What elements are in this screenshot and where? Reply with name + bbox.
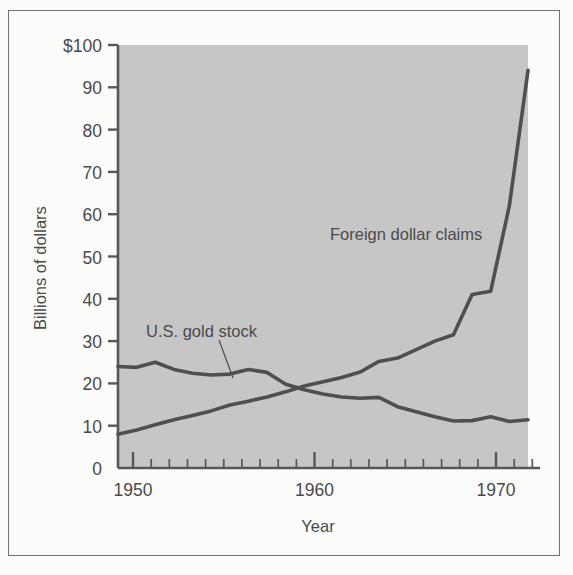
y-tick-label-10: 10	[83, 417, 103, 437]
y-tick-label-60: 60	[83, 205, 103, 225]
y-axis-ticks	[108, 45, 118, 426]
y-tick-label-50: 50	[83, 248, 103, 268]
x-tick-label-1960: 1960	[295, 480, 334, 500]
x-axis-title: Year	[301, 517, 335, 535]
y-tick-label-70: 70	[83, 163, 103, 183]
x-tick-label-1950: 1950	[114, 480, 153, 500]
y-tick-label-40: 40	[83, 290, 103, 310]
y-tick-label-80: 80	[83, 121, 103, 141]
y-tick-label-20: 20	[83, 374, 103, 394]
y-tick-label-30: 30	[83, 332, 103, 352]
y-tick-label-100: $100	[63, 36, 102, 56]
line-chart: $100 90 80 70 60 50 40 30 20 10 0 Billio…	[0, 0, 573, 575]
y-axis-title: Billions of dollars	[31, 206, 49, 330]
annotation-foreign-dollar-claims: Foreign dollar claims	[330, 225, 482, 243]
chart-figure: $100 90 80 70 60 50 40 30 20 10 0 Billio…	[0, 0, 573, 575]
annotation-us-gold-stock: U.S. gold stock	[146, 322, 258, 340]
plot-area-background	[118, 45, 528, 468]
y-tick-label-0: 0	[92, 459, 102, 479]
x-tick-label-1970: 1970	[477, 480, 516, 500]
y-tick-label-90: 90	[83, 78, 103, 98]
